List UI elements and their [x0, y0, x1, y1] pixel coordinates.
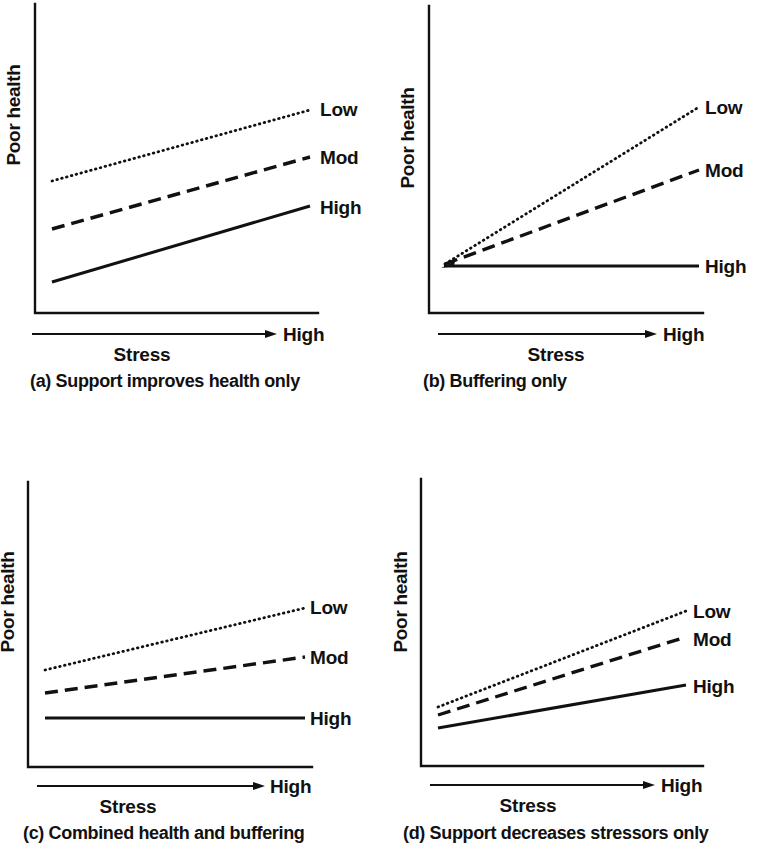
panel-d-series-mod — [438, 637, 686, 715]
panel-d: Poor health Low Mod High High Stress (d)… — [383, 422, 766, 844]
panel-a-label-high: High — [320, 197, 361, 218]
panel-b-xlabel: Stress — [528, 344, 585, 365]
panel-a-label-mod: Mod — [320, 147, 358, 168]
panel-b-label-mod: Mod — [705, 160, 743, 181]
panel-c-axes — [28, 482, 312, 767]
panel-b-caption: (b) Buffering only — [423, 371, 567, 391]
panel-c-label-low: Low — [310, 597, 348, 618]
panel-b-x-end-label: High — [663, 324, 704, 345]
panel-b-x-arrow-head-icon — [645, 330, 657, 338]
panel-d-label-high: High — [693, 676, 734, 697]
panel-c-caption: (c) Combined health and buffering — [23, 823, 304, 843]
panel-c-series-mod — [45, 657, 305, 693]
panel-c-ylabel: Poor health — [0, 551, 18, 652]
panel-a-x-arrow-head-icon — [265, 330, 277, 338]
panel-c: Poor health Low Mod High High Stress (c)… — [0, 422, 383, 844]
panel-a-x-end-label: High — [283, 324, 324, 345]
panel-d-x-arrow-head-icon — [643, 781, 655, 789]
panel-c-xlabel: Stress — [100, 796, 157, 817]
panel-c-label-mod: Mod — [310, 647, 348, 668]
panel-d-ylabel: Poor health — [390, 551, 411, 652]
panel-d-label-low: Low — [693, 601, 731, 622]
panel-d-xlabel: Stress — [500, 795, 557, 816]
panel-c-chart: Poor health Low Mod High High Stress (c)… — [0, 422, 383, 844]
panel-a-ylabel: Poor health — [3, 64, 24, 165]
panel-b: Poor health Low Mod High High Stress (b)… — [383, 0, 766, 422]
panel-a-series-low — [52, 110, 310, 181]
panel-d-x-end-label: High — [661, 775, 702, 796]
panel-b-label-low: Low — [705, 97, 743, 118]
panel-b-ylabel: Poor health — [397, 87, 418, 188]
panel-d-chart: Poor health Low Mod High High Stress (d)… — [383, 422, 766, 844]
panel-a-axes — [35, 4, 318, 313]
figure-four-panel-stress-support: Poor health Low Mod High High Stress (a)… — [0, 0, 766, 844]
panel-b-label-high: High — [705, 256, 746, 277]
panel-c-label-high: High — [310, 708, 351, 729]
panel-d-label-mod: Mod — [693, 629, 731, 650]
panel-c-x-end-label: High — [270, 776, 311, 797]
panel-d-caption: (d) Support decreases stressors only — [403, 823, 709, 843]
panel-a: Poor health Low Mod High High Stress (a)… — [0, 0, 383, 422]
panel-b-chart: Poor health Low Mod High High Stress (b)… — [383, 0, 766, 422]
panel-a-caption: (a) Support improves health only — [30, 371, 300, 391]
panel-a-xlabel: Stress — [114, 344, 171, 365]
panel-a-chart: Poor health Low Mod High High Stress (a)… — [0, 0, 383, 422]
panel-a-label-low: Low — [320, 99, 358, 120]
panel-c-x-arrow-head-icon — [253, 782, 265, 790]
